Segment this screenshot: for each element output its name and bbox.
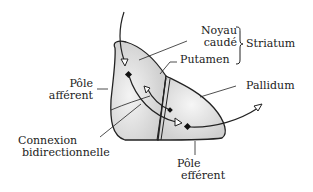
striatum-shape [111, 41, 166, 140]
label-pallidum: Pallidum [246, 80, 295, 92]
pallidum-shape [158, 76, 225, 140]
label-line: caudé [186, 37, 237, 49]
label-noyau-caude: Noyau caudé [186, 25, 237, 49]
label-line: efférent [177, 170, 225, 182]
label-line: bidirectionnelle [18, 147, 110, 159]
label-striatum: Striatum [246, 38, 295, 50]
label-pole-efferent: Pôle efférent [177, 158, 225, 182]
label-line: afférent [38, 90, 93, 102]
label-putamen: Putamen [180, 54, 230, 66]
label-connexion: Connexion bidirectionnelle [18, 135, 110, 159]
label-pole-afferent: Pôle afférent [38, 78, 93, 102]
striatum-brace [236, 27, 243, 64]
